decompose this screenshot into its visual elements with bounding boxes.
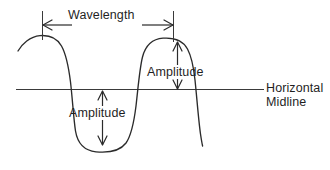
horizontal-midline-label-line1: Horizontal [266,81,323,95]
amplitude-upper-label: Amplitude [147,65,204,79]
horizontal-midline-label: Horizontal Midline [266,81,323,109]
wavelength-label: Wavelength [68,8,135,22]
wave-curve [18,35,203,152]
wave-diagram: Wavelength Amplitude Amplitude Horizonta… [0,0,330,170]
horizontal-midline-label-line2: Midline [266,95,323,109]
amplitude-lower-label: Amplitude [69,106,126,120]
